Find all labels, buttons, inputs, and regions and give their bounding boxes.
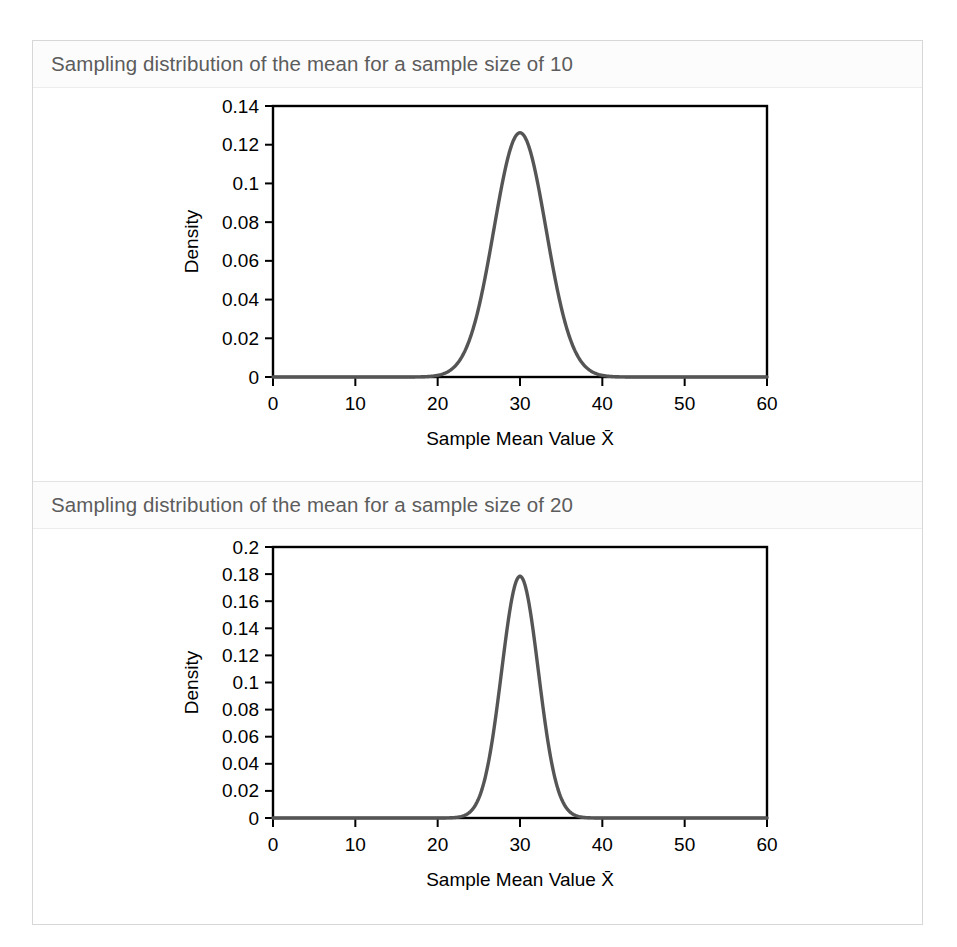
x-axis-title: Sample Mean Value X̄ <box>426 869 614 890</box>
panel-title-1: Sampling distribution of the mean for a … <box>33 41 922 88</box>
y-tick-label: 0 <box>248 367 259 388</box>
plot-area-1: 00.020.040.060.080.10.120.14010203040506… <box>33 88 922 481</box>
y-tick-label: 0.14 <box>222 618 259 639</box>
x-tick-label: 40 <box>592 834 613 855</box>
y-tick-label: 0.12 <box>222 645 259 666</box>
y-tick-label: 0.04 <box>222 753 259 774</box>
plot-area-2: 00.020.040.060.080.10.120.140.160.180.20… <box>33 529 922 922</box>
y-tick-label: 0.12 <box>222 134 259 155</box>
x-tick-label: 30 <box>509 393 530 414</box>
y-tick-label: 0.04 <box>222 289 259 310</box>
chart-svg-sample-size-20: 00.020.040.060.080.10.120.140.160.180.20… <box>33 529 922 922</box>
x-tick-label: 0 <box>268 834 279 855</box>
y-tick-label: 0.06 <box>222 726 259 747</box>
x-tick-label: 50 <box>674 393 695 414</box>
y-tick-label: 0.06 <box>222 250 259 271</box>
chart-svg-sample-size-10: 00.020.040.060.080.10.120.14010203040506… <box>33 88 922 481</box>
x-tick-label: 10 <box>345 834 366 855</box>
panel-title-2: Sampling distribution of the mean for a … <box>33 482 922 529</box>
panel-sample-size-10: Sampling distribution of the mean for a … <box>33 41 922 481</box>
y-tick-label: 0.02 <box>222 780 259 801</box>
y-tick-label: 0.1 <box>233 672 259 693</box>
figure-card: Sampling distribution of the mean for a … <box>32 40 923 925</box>
x-tick-label: 20 <box>427 393 448 414</box>
y-tick-label: 0.2 <box>233 537 259 558</box>
y-tick-label: 0.08 <box>222 212 259 233</box>
x-tick-label: 10 <box>345 393 366 414</box>
y-tick-label: 0.08 <box>222 699 259 720</box>
x-tick-label: 20 <box>427 834 448 855</box>
y-tick-label: 0.16 <box>222 591 259 612</box>
page-root: Sampling distribution of the mean for a … <box>0 0 957 947</box>
panel-sample-size-20: Sampling distribution of the mean for a … <box>33 482 922 922</box>
x-tick-label: 60 <box>756 834 777 855</box>
y-tick-label: 0.1 <box>233 173 259 194</box>
x-tick-label: 30 <box>509 834 530 855</box>
x-tick-label: 50 <box>674 834 695 855</box>
x-tick-label: 0 <box>268 393 279 414</box>
y-tick-label: 0 <box>248 808 259 829</box>
y-axis-title: Density <box>181 209 202 273</box>
y-tick-label: 0.14 <box>222 96 259 117</box>
density-curve <box>273 576 767 818</box>
y-tick-label: 0.18 <box>222 564 259 585</box>
plot-frame <box>273 547 767 818</box>
x-axis-title: Sample Mean Value X̄ <box>426 428 614 449</box>
plot-frame <box>273 106 767 377</box>
y-tick-label: 0.02 <box>222 328 259 349</box>
density-curve <box>273 133 767 377</box>
x-tick-label: 40 <box>592 393 613 414</box>
x-tick-label: 60 <box>756 393 777 414</box>
y-axis-title: Density <box>181 650 202 714</box>
